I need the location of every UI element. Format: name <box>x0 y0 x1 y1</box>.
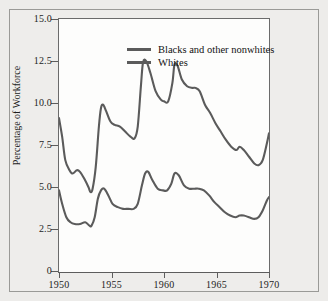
series-line <box>59 171 269 226</box>
legend-item-blacks-and-other-nonwhites: Blacks and other nonwhites <box>127 43 274 56</box>
legend-swatch-icon <box>127 61 151 64</box>
y-axis-tick <box>51 19 58 20</box>
y-axis-tick-label: 7.5 <box>39 139 52 150</box>
y-axis-tick <box>51 187 58 188</box>
x-axis-tick-label: 1965 <box>192 279 242 290</box>
y-axis-tick-label: 15.0 <box>34 13 52 24</box>
y-axis-tick <box>51 61 58 62</box>
y-axis-tick-label: 2.5 <box>39 223 52 234</box>
x-axis-tick-label: 1950 <box>34 279 84 290</box>
series-line <box>59 60 269 193</box>
y-axis-tick-label: 5.0 <box>39 181 52 192</box>
y-axis-title: Percentage of Workforce <box>11 26 22 206</box>
y-axis-tick <box>51 103 58 104</box>
x-axis-tick-label: 1970 <box>244 279 294 290</box>
legend-swatch-icon <box>127 48 151 51</box>
y-axis-tick <box>51 229 58 230</box>
y-axis-tick-label: 0 <box>47 265 52 276</box>
x-axis-tick-label: 1955 <box>87 279 137 290</box>
x-axis-tick-label: 1960 <box>139 279 189 290</box>
y-axis-tick-label: 12.5 <box>34 55 52 66</box>
plot-area: Blacks and other nonwhites Whites <box>58 18 270 272</box>
legend-label: Whites <box>158 56 188 69</box>
legend: Blacks and other nonwhites Whites <box>127 43 274 69</box>
y-axis-tick <box>51 145 58 146</box>
y-axis-tick-label: 10.0 <box>34 97 52 108</box>
legend-item-whites: Whites <box>127 56 274 69</box>
y-axis-tick <box>51 271 58 272</box>
x-axis-line <box>58 272 270 273</box>
chart-figure: Percentage of Workforce 02.55.07.510.012… <box>0 0 328 301</box>
legend-label: Blacks and other nonwhites <box>158 43 274 56</box>
